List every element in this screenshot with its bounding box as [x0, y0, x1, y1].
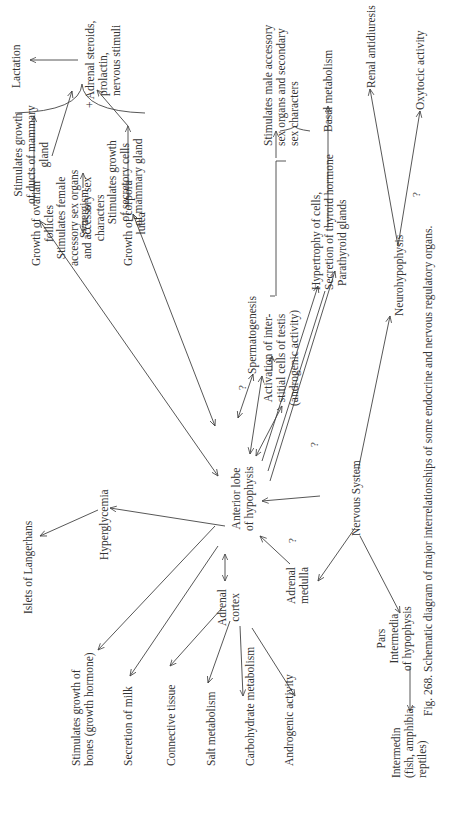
question-mark: ? [410, 192, 422, 197]
spermatogenesis-label: Spermatogenesis [246, 296, 259, 374]
androgenic-activity-label: Androgenic activity [283, 674, 296, 766]
intermedin-label: Intermedin(fish, amphibia,reptiles) [390, 706, 429, 779]
thyroid-label: Hypertrophy of cells,Secretion of thyroi… [310, 154, 336, 290]
connector-layer: ? ? ? ? ? [0, 0, 459, 826]
nervous-system-label: Nervous System [350, 460, 363, 536]
male-accessory-label: Stimulates male accessorysex organs and … [262, 25, 301, 146]
ovarian-follicles-label: Growth of ovarianfollicles [30, 181, 56, 266]
pars-intermedia-label: ParsIntermediaof hypophysis [375, 606, 414, 671]
parathyroid-label: Parathyroid glands [336, 199, 349, 286]
interstitial-cells-label: Activation of inter-stitial cells of tes… [262, 310, 301, 406]
secretion-milk-label: Secretion of milk [122, 686, 135, 766]
question-mark: ? [286, 538, 298, 543]
adrenal-medulla-label: Adrenalmedulla [285, 567, 311, 604]
growth-bones-label: Stimulates growth ofbones (growth hormon… [70, 652, 96, 766]
adrenal-steroids-label: + Adrenal steroids,prolactin,nervous sti… [84, 21, 123, 108]
hyperglycemia-label: Hyperglycemia [98, 489, 111, 560]
adrenal-cortex-label: Adrenalcortex [216, 589, 242, 626]
diagram-frame: ? ? ? ? ? Lactation + Adrenal steroids,p… [0, 0, 459, 826]
oxytocic-label: Oxytocic activity [414, 30, 427, 110]
question-mark: ? [308, 442, 320, 447]
neurohypophysis-label: Neurohypophysis [393, 235, 406, 316]
basal-metabolism-label: Basal metabolism [322, 50, 335, 132]
anterior-lobe-label: Anterior lobeof hypophysis [230, 466, 256, 531]
renal-antidiuresis-label: Renal antidiuresis [365, 5, 378, 88]
lactation-label: Lactation [10, 45, 23, 88]
corpora-lutea-label: Growth of corporalutea [122, 180, 148, 266]
islets-label: Islets of Langerhans [22, 521, 35, 614]
question-mark: ? [236, 385, 248, 390]
connective-tissue-label: Connective tissue [165, 685, 178, 766]
synergism-label: Synergism [78, 189, 91, 238]
figure-caption: Fig. 268. Schematic diagram of major int… [422, 226, 434, 716]
salt-metabolism-label: Salt metabolism [205, 692, 218, 766]
carbohydrate-metabolism-label: Carbohydrate metabolism [244, 647, 257, 766]
